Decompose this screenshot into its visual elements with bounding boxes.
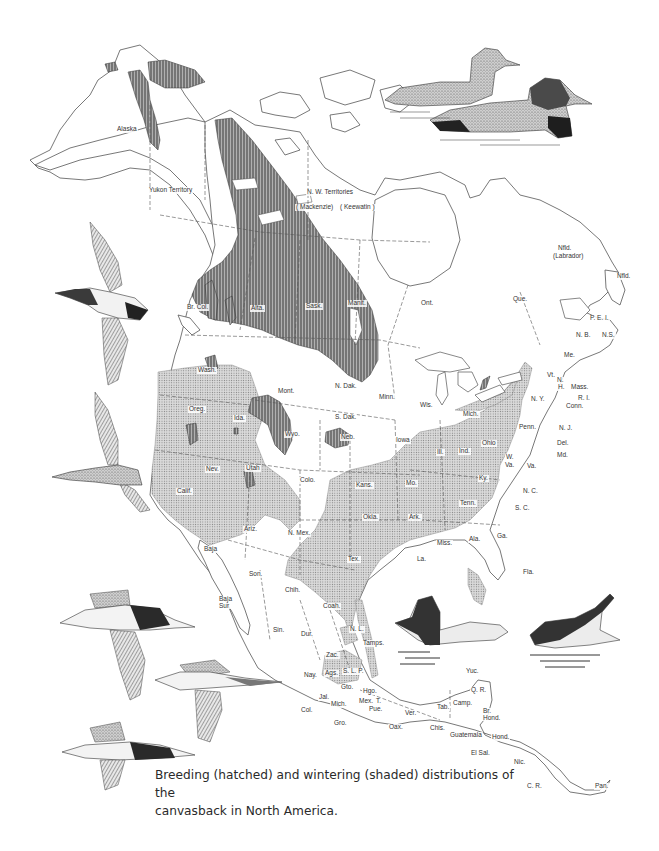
- label-nic: Nic.: [513, 759, 526, 766]
- label-br-hond: Br. Hond.: [482, 708, 504, 721]
- label-md: Md.: [556, 452, 569, 459]
- label-yuc: Yuc.: [465, 668, 480, 675]
- label-neb: Neb.: [340, 434, 356, 441]
- label-alta: Alta.: [250, 305, 265, 312]
- caption-line-2: canvasback in North America.: [155, 802, 515, 820]
- label-camp: Camp.: [452, 700, 473, 707]
- label-nwt: N. W. Territories: [306, 189, 354, 196]
- label-ill: Ill.: [436, 449, 445, 456]
- label-pan: Pan.: [594, 783, 609, 790]
- label-iowa: Iowa: [395, 437, 411, 444]
- label-dur: Dur.: [300, 631, 314, 638]
- label-ind: Ind.: [458, 448, 471, 455]
- label-ohio: Ohio: [481, 440, 497, 447]
- label-mass: Mass.: [570, 384, 589, 391]
- label-mex: Mex.: [358, 698, 374, 705]
- label-nb: N. B.: [575, 332, 591, 339]
- label-oax: Oax.: [388, 724, 404, 731]
- label-ga: Ga.: [496, 533, 508, 540]
- label-me: Me.: [563, 352, 576, 359]
- pair-swimming-bottom-right: [395, 594, 620, 667]
- label-cr: C. R.: [526, 783, 543, 790]
- label-utah: Utah: [245, 465, 261, 472]
- label-wis: Wis.: [419, 402, 434, 409]
- label-col: Col.: [300, 707, 314, 714]
- label-slp: S. L. P.: [342, 668, 364, 675]
- label-la: La.: [416, 556, 427, 563]
- label-ark: Ark.: [408, 514, 422, 521]
- label-hond: Hond.: [491, 734, 510, 741]
- flying-duck-left-2: [52, 392, 150, 512]
- label-hgo: Hgo.: [362, 688, 378, 695]
- label-nc: N. C.: [522, 488, 539, 495]
- label-ver: Ver.: [404, 710, 417, 717]
- label-br-col: Br. Col.: [186, 304, 209, 311]
- label-ny: N. Y.: [530, 396, 546, 403]
- label-colo: Colo.: [299, 477, 316, 484]
- label-mont: Mont.: [277, 388, 295, 395]
- label-mackenzie: ( Mackenzie): [295, 204, 334, 211]
- label-tab: Tab.: [436, 704, 450, 711]
- label-wash: Wash.: [197, 367, 217, 374]
- label-ariz: Ariz.: [243, 526, 258, 533]
- label-el-sal: El Sal.: [470, 750, 491, 757]
- label-zac: Zac.: [325, 652, 340, 659]
- label-qr: Q. R.: [470, 687, 487, 694]
- label-mich-mx: Mich.: [330, 701, 348, 708]
- label-gro: Gro.: [333, 720, 348, 727]
- label-alaska: Alaska: [116, 126, 138, 133]
- label-tenn: Tenn.: [459, 500, 477, 507]
- label-ns: N.S.: [601, 332, 616, 339]
- label-baja: Baja: [203, 546, 218, 553]
- label-ri: R. I.: [577, 395, 591, 402]
- label-son: Son.: [248, 571, 263, 578]
- label-coah: Coah.: [322, 603, 341, 610]
- label-sin: Sin.: [272, 627, 285, 634]
- label-sc: S. C.: [514, 505, 530, 512]
- pair-swimming-top-right: [385, 48, 592, 145]
- label-jal: Jal.: [318, 694, 330, 701]
- label-gto: Gto.: [340, 684, 354, 691]
- label-que: Que.: [512, 296, 528, 303]
- label-minn: Minn.: [378, 394, 396, 401]
- label-ndak: N. Dak.: [334, 383, 358, 390]
- label-chih: Chih.: [284, 587, 301, 594]
- label-nay: Nay.: [303, 672, 318, 679]
- label-penn: Penn.: [518, 424, 537, 431]
- label-ags: Ags.: [324, 670, 339, 677]
- label-kans: Kans.: [355, 482, 374, 489]
- label-del: Del.: [556, 440, 570, 447]
- label-nev: Nev.: [205, 466, 220, 473]
- label-wva-w: W.: [505, 454, 515, 461]
- label-sask: Sask.: [305, 303, 323, 310]
- label-fla: Fla.: [522, 569, 535, 576]
- label-ky: Ky.: [478, 475, 489, 482]
- label-nmex: N. Mex.: [287, 530, 311, 537]
- label-tex: Tex.: [347, 556, 361, 563]
- arctic-islands: [260, 92, 310, 118]
- land-outline: [30, 45, 625, 795]
- label-manit: Manit.: [347, 300, 367, 307]
- label-chis: Chis.: [429, 725, 446, 732]
- label-wva-va: Va.: [504, 462, 515, 469]
- caption-line-1: Breeding (hatched) and wintering (shaded…: [155, 766, 515, 802]
- label-conn: Conn.: [565, 403, 584, 410]
- label-vt: Vt.: [546, 372, 556, 379]
- label-wyo: Wyo.: [284, 431, 301, 438]
- label-mo: Mo.: [405, 480, 418, 487]
- label-okla: Okla.: [362, 514, 379, 521]
- label-oreg: Oreg.: [188, 406, 206, 413]
- label-baja-sur: Baja Sur: [218, 596, 238, 609]
- label-guatemala: Guatemala: [449, 732, 483, 739]
- label-sdak: S. Dak.: [334, 414, 357, 421]
- label-labrador: (Labrador): [552, 253, 584, 260]
- figure-caption: Breeding (hatched) and wintering (shaded…: [155, 766, 515, 820]
- label-ida: Ida.: [233, 415, 246, 422]
- label-pei: P. E. I.: [589, 315, 610, 322]
- label-keewatin: ( Keewatin ): [339, 204, 376, 211]
- label-calif: Calif.: [176, 488, 193, 495]
- flying-duck-left-1: [55, 222, 148, 385]
- label-miss: Miss.: [436, 540, 453, 547]
- label-yukon: Yukon Territory: [148, 187, 193, 194]
- label-nl: N. L.: [349, 626, 365, 633]
